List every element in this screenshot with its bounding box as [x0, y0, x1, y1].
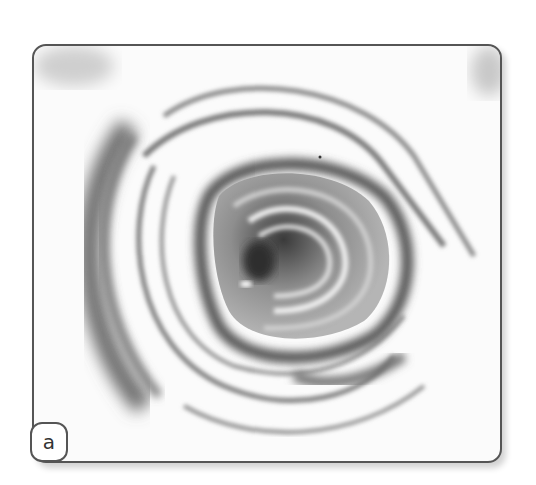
figure-panel-a	[32, 44, 502, 463]
panel-label-text: a	[43, 430, 55, 454]
endoscopic-image	[34, 46, 502, 463]
panel-label: a	[30, 422, 68, 462]
